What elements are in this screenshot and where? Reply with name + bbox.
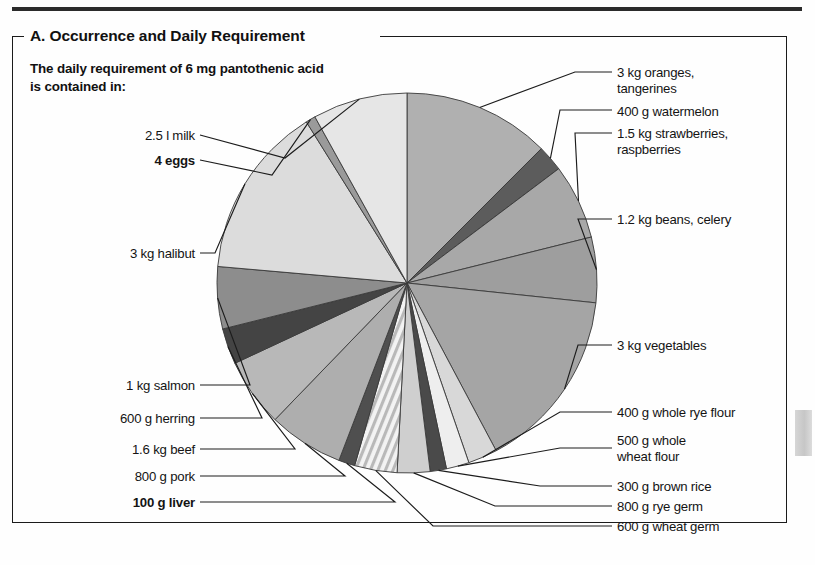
label-wheat-flour: 500 g whole wheat flour bbox=[617, 433, 807, 466]
label-beef: 1.6 kg beef bbox=[20, 442, 195, 458]
label-milk: 2.5 l milk bbox=[60, 128, 195, 144]
page-index-tab bbox=[795, 410, 812, 456]
label-wheat-germ: 600 g wheat germ bbox=[617, 519, 807, 535]
label-herring: 600 g herring bbox=[20, 411, 195, 427]
figure-caption: The daily requirement of 6 mg pantotheni… bbox=[30, 60, 330, 95]
label-beans: 1.2 kg beans, celery bbox=[617, 212, 807, 228]
label-pork: 800 g pork bbox=[20, 469, 195, 485]
label-vegetables: 3 kg vegetables bbox=[617, 338, 807, 354]
top-rule-divider bbox=[12, 7, 802, 11]
label-rye-germ: 800 g rye germ bbox=[617, 499, 807, 515]
label-watermelon: 400 g watermelon bbox=[617, 104, 807, 120]
label-liver: 100 g liver bbox=[20, 495, 195, 511]
label-strawberries: 1.5 kg strawberries, raspberries bbox=[617, 126, 807, 159]
label-eggs: 4 eggs bbox=[60, 153, 195, 169]
label-oranges: 3 kg oranges, tangerines bbox=[617, 65, 807, 98]
label-halibut: 3 kg halibut bbox=[20, 246, 195, 262]
label-salmon: 1 kg salmon bbox=[20, 378, 195, 394]
panel-title: A. Occurrence and Daily Requirement bbox=[30, 26, 305, 45]
figure-root: A. Occurrence and Daily Requirement The … bbox=[0, 0, 815, 565]
label-brown-rice: 300 g brown rice bbox=[617, 479, 807, 495]
label-rye-flour: 400 g whole rye flour bbox=[617, 405, 807, 421]
